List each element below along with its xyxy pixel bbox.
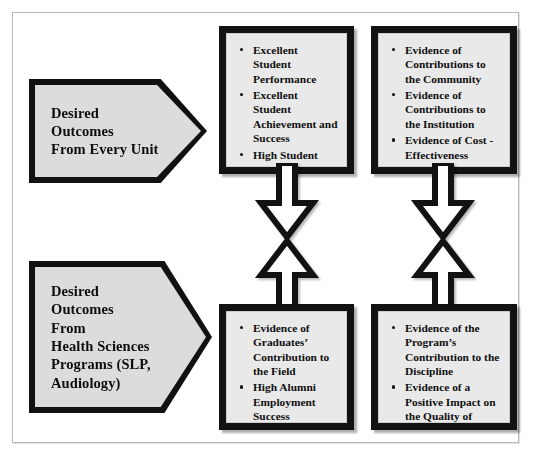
list-item: Evidence of Graduates’ Contribution to t… [253, 321, 338, 378]
bullet-list: Evidence of Contributions to the Communi… [379, 34, 509, 167]
box-institution-evidence: Evidence of Contributions to the Communi… [371, 26, 517, 174]
box-graduate-evidence-body: Evidence of Graduates’ Contribution to t… [226, 311, 347, 423]
box-student-outcomes-body: Excellent Student Performance Excellent … [226, 33, 347, 167]
bullet-list: Evidence of Graduates’ Contribution to t… [227, 312, 346, 423]
callout-line: Desired [51, 282, 155, 300]
callout-line: Outcomes [51, 300, 155, 318]
callout-label-health-sciences: Desired Outcomes From Health Sciences Pr… [51, 261, 155, 413]
callout-line: Audiology) [51, 374, 155, 392]
callout-desired-outcomes-every-unit: Desired Outcomes From Every Unit [29, 79, 207, 183]
list-item: Excellent Student Achievement and Succes… [253, 88, 338, 145]
list-item: Evidence of Cost - Effectiveness [405, 133, 501, 162]
callout-line: Health Sciences [51, 337, 155, 355]
callout-line: From Every Unit [51, 140, 143, 158]
list-item: Evidence of Contributions to the Institu… [405, 88, 501, 131]
diagram-frame: Desired Outcomes From Every Unit Desired… [12, 12, 519, 443]
list-item: Evidence of a Positive Impact on the Qua… [405, 380, 501, 423]
list-item: High Alumni Employment Success [253, 380, 338, 423]
callout-line: From [51, 319, 155, 337]
box-program-evidence: Evidence of the Program’s Contribution t… [371, 304, 517, 430]
bullet-list: Excellent Student Performance Excellent … [227, 34, 346, 167]
box-program-evidence-body: Evidence of the Program’s Contribution t… [378, 311, 510, 423]
box-institution-evidence-body: Evidence of Contributions to the Communi… [378, 33, 510, 167]
list-item: Evidence of Contributions to the Communi… [405, 43, 501, 86]
box-student-outcomes: Excellent Student Performance Excellent … [219, 26, 354, 174]
callout-line: Outcomes [51, 122, 143, 140]
list-item: Excellent Student Performance [253, 43, 338, 86]
box-graduate-evidence: Evidence of Graduates’ Contribution to t… [219, 304, 354, 430]
callout-line: Programs (SLP, [51, 355, 155, 373]
double-headed-arrow-icon-left [253, 163, 321, 315]
callout-label-every-unit: Desired Outcomes From Every Unit [51, 79, 143, 183]
bullet-list: Evidence of the Program’s Contribution t… [379, 312, 509, 423]
list-item: Evidence of the Program’s Contribution t… [405, 321, 501, 378]
callout-line: Desired [51, 104, 143, 122]
double-headed-arrow-icon-right [409, 163, 477, 315]
callout-desired-outcomes-health-sciences: Desired Outcomes From Health Sciences Pr… [29, 261, 212, 413]
